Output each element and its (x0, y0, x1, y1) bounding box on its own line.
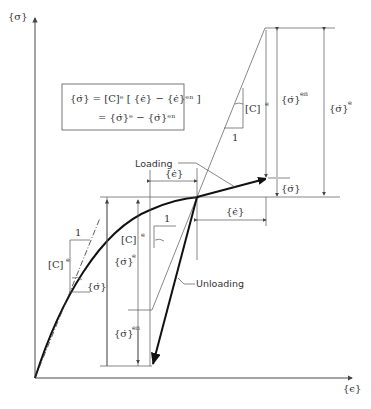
slope-ce-sup: e (66, 256, 70, 264)
x-axis-label: {ϵ} (343, 383, 361, 394)
unloading-leader (178, 278, 195, 284)
eps-dot-bottom-label: {ϵ̇} (226, 206, 244, 217)
equation-line-1: {σ̇} = [C]ᵉ [ {ϵ̇} − {ϵ̇}ᵉⁿ ] (70, 93, 201, 104)
sigma-dot-e-left-label: {σ̇} (114, 256, 134, 267)
slope-lower-ce: [C] (121, 234, 137, 245)
loading-leader (178, 163, 235, 187)
sigma-dot-curve-label: {σ̇} (87, 281, 107, 292)
loading-arrow (197, 179, 265, 197)
slope-upper-ce-sup: e (265, 100, 269, 108)
slope-lower-ce-sup: e (141, 231, 145, 239)
stress-strain-diagram: {σ} {ϵ} {σ̇} = [C]ᵉ [ {ϵ̇} − {ϵ̇}ᵉⁿ ] = … (0, 0, 371, 409)
elastic-unloading-line (152, 197, 197, 310)
slope-lower-one: 1 (164, 213, 170, 224)
equation-line-2: = {σ̇}ᵉ − {σ̇}ᵉⁿ (98, 112, 175, 123)
sigma-dot-e-right-sup: e (348, 99, 352, 107)
stress-strain-curve (35, 197, 199, 378)
slope-one-label: 1 (75, 227, 81, 238)
angle-arc-upper (235, 103, 243, 104)
slope-ce-label: [C] (48, 259, 64, 270)
sigma-dot-en-left-sup: en (132, 324, 140, 332)
unloading-arrow (153, 197, 197, 364)
sigma-dot-e-right-label: {σ̇} (329, 103, 349, 114)
slope-upper-one: 1 (232, 132, 238, 143)
unloading-label: Unloading (196, 278, 244, 289)
y-axis-label: {σ} (8, 11, 28, 22)
eps-dot-top-label: {ϵ̇} (165, 168, 183, 179)
sigma-dot-en-right-sup: en (300, 90, 308, 98)
sigma-dot-en-left-label: {σ̇} (114, 328, 134, 339)
loading-label: Loading (135, 158, 172, 169)
equation-box: {σ̇} = [C]ᵉ [ {ϵ̇} − {ϵ̇}ᵉⁿ ] = {σ̇}ᵉ − … (62, 84, 201, 130)
slope-triangle-lower (154, 226, 176, 248)
sigma-dot-en-right-label: {σ̇} (281, 94, 301, 105)
sigma-dot-e-left-sup: e (132, 252, 136, 260)
slope-upper-ce: [C] (245, 103, 261, 114)
sigma-dot-right-label: {σ̇} (281, 183, 301, 194)
angle-arc-lower (155, 239, 164, 241)
